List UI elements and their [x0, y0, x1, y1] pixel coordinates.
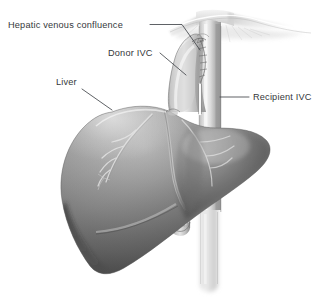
liver-ligament-stub-tone [168, 110, 178, 115]
label-liver: Liver [56, 77, 77, 87]
label-hepatic-venous-confluence: Hepatic venous confluence [8, 20, 123, 30]
label-donor-ivc: Donor IVC [108, 48, 153, 58]
recipient-ivc-lower-segment [200, 200, 218, 292]
illustration-canvas: Hepatic venous confluence Donor IVC Live… [0, 0, 333, 301]
recipient-ivc-lower-highlight [204, 214, 207, 284]
anatomical-illustration-figure: Hepatic venous confluence Donor IVC Live… [0, 0, 333, 301]
label-recipient-ivc: Recipient IVC [253, 92, 312, 102]
